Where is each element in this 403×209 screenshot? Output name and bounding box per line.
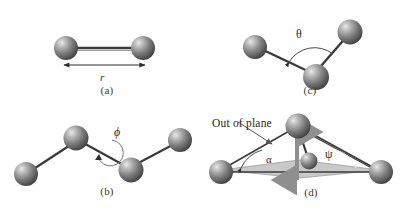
psi-angle-label: ψ	[325, 148, 333, 160]
atom-sphere	[209, 160, 233, 184]
bond-angle-label: θ	[296, 28, 302, 40]
alpha-angle-label: α	[266, 154, 272, 165]
atom-sphere	[338, 20, 363, 45]
atom-sphere	[119, 158, 144, 183]
reference-plane	[221, 160, 380, 178]
atom-sphere	[301, 153, 318, 170]
panel-c-graphics	[243, 20, 363, 91]
panel-caption-d: (d)	[291, 186, 331, 198]
atom-sphere	[54, 36, 78, 60]
atom-sphere	[14, 162, 38, 186]
atom-sphere	[131, 36, 155, 60]
panel-caption-b: (b)	[87, 185, 127, 197]
panel-caption-a: (a)	[87, 84, 127, 96]
torsion-angle-label: ϕ	[114, 126, 120, 138]
atom-sphere	[369, 160, 393, 184]
panel-a-graphics	[54, 36, 155, 65]
atom-sphere	[243, 35, 267, 59]
torsion-arrow-head	[95, 154, 102, 160]
atom-sphere	[168, 128, 192, 152]
out-of-plane-label: Out of plane	[212, 117, 272, 129]
bond-length-label: r	[100, 72, 104, 83]
atom-sphere	[64, 126, 89, 151]
figure-canvas	[0, 0, 403, 209]
panel-b-graphics	[14, 126, 192, 187]
molecular-coordinates-figure: r θ ϕ Out of plane α ψ (a) (b) (c) (d)	[0, 0, 403, 209]
panel-caption-c: (c)	[290, 84, 330, 96]
atom-sphere	[286, 114, 311, 139]
